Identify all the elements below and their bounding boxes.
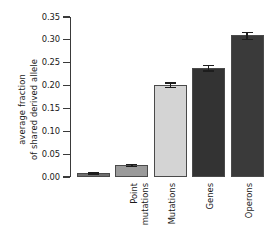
y-tick-mark (63, 62, 70, 63)
error-bar-cap (242, 32, 253, 33)
error-bar-cap (242, 39, 253, 40)
bar (192, 68, 225, 177)
y-tick-label: 0.10 (26, 126, 60, 136)
y-tick-label: 0.00 (26, 172, 60, 182)
y-tick-mark (63, 85, 70, 86)
x-category-label: Genes (205, 183, 216, 250)
error-bar-cap (203, 65, 214, 66)
y-tick-label: 0.35 (26, 12, 60, 22)
y-tick-mark (63, 39, 70, 40)
error-bar-cap (126, 166, 137, 167)
y-tick-mark (63, 108, 70, 109)
x-category-label: Mutations (167, 183, 178, 250)
y-tick-label: 0.15 (26, 103, 60, 113)
x-category-label: Operons (244, 183, 255, 250)
y-tick-mark (63, 176, 70, 177)
error-bar-cap (203, 70, 214, 71)
error-bar-cap (165, 82, 176, 83)
error-bar-cap (88, 173, 99, 174)
bar (231, 35, 264, 177)
y-tick-mark (63, 131, 70, 132)
x-category-label: Point mutations (129, 183, 150, 250)
plot-area (71, 17, 263, 177)
bar-chart-figure: average fraction of shared derived allel… (0, 0, 269, 250)
y-tick-label: 0.20 (26, 80, 60, 90)
y-tick-label: 0.30 (26, 34, 60, 44)
bar (154, 85, 187, 177)
y-tick-label: 0.05 (26, 149, 60, 159)
error-bar-cap (165, 87, 176, 88)
y-tick-mark (63, 16, 70, 17)
y-tick-mark (63, 154, 70, 155)
y-tick-label: 0.25 (26, 57, 60, 67)
